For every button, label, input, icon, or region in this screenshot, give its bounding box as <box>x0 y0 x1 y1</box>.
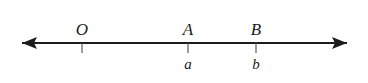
number-line-figure: O A B a b <box>0 0 368 83</box>
label-b-lower: b <box>246 57 266 72</box>
label-a-upper: A <box>178 21 198 38</box>
label-a-lower: a <box>178 57 198 72</box>
label-b-upper: B <box>246 21 266 38</box>
page-edge-artifact <box>0 76 368 77</box>
label-origin-upper: O <box>72 21 92 38</box>
